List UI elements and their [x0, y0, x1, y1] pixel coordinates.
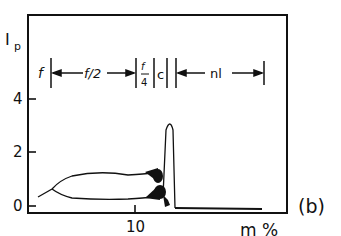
nl-line	[175, 208, 262, 209]
y-tick-label-2: 2	[13, 143, 23, 161]
y-axis-label: I	[5, 30, 10, 49]
y-tick-label-0: 0	[13, 197, 23, 215]
chart-canvas: I p 4 2 0 10 m % (b) f f/2 f 4 c nl	[0, 0, 341, 236]
region-c-label: c	[157, 67, 164, 82]
panel-label: (b)	[298, 195, 325, 217]
region-f-quarter-den: 4	[141, 77, 147, 88]
lower-branch	[52, 189, 158, 199]
x-tick-label-10: 10	[126, 218, 145, 236]
x-axis-label: m %	[240, 220, 278, 236]
y-axis-label-sub: p	[14, 40, 21, 53]
y-tick-label-4: 4	[13, 90, 23, 108]
chaotic-bands	[145, 168, 170, 207]
y-axis-ticks	[28, 99, 36, 206]
plot-frame	[28, 15, 287, 213]
upper-branch	[38, 172, 158, 197]
region-f-label: f	[38, 65, 45, 81]
region-nl-label: nl	[210, 66, 222, 81]
region-f-half-label: f/2	[84, 66, 101, 81]
region-f-quarter-num: f	[141, 61, 146, 72]
